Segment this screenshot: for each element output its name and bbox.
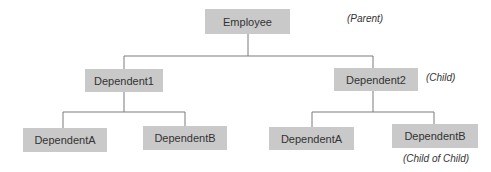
annotation-child: (Child) — [426, 72, 455, 83]
annotation-child-of-child: (Child of Child) — [403, 153, 469, 164]
node-dependent2-b: DependentB — [392, 124, 478, 148]
hierarchy-diagram: Employee (Parent) Dependent1 Dependent2 … — [0, 0, 491, 172]
node-dependent1: Dependent1 — [85, 69, 163, 92]
annotation-parent: (Parent) — [347, 13, 383, 24]
node-dependent2: Dependent2 — [334, 68, 418, 91]
node-dependent2-a: DependentA — [269, 127, 354, 150]
node-dependent1-a: DependentA — [23, 128, 107, 152]
node-dependent1-b: DependentB — [143, 126, 227, 150]
node-employee: Employee — [205, 9, 290, 34]
